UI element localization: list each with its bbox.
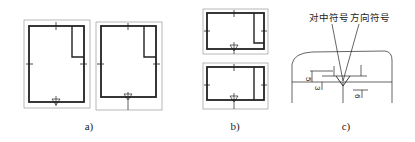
panel-a-label: a)	[85, 120, 94, 133]
dimension-3: 3	[313, 86, 322, 91]
centering-symbol-label: 对中符号	[309, 12, 349, 23]
dimension-5: 5	[304, 77, 313, 82]
orientation-mark	[230, 42, 238, 54]
panel-b-sheet-2	[203, 63, 268, 109]
panel-c-detail	[292, 24, 392, 103]
orientation-mark	[124, 92, 132, 110]
panel-b-label: b)	[230, 120, 240, 133]
orientation-mark	[230, 93, 238, 109]
orientation-symbol-label: 方向符号	[350, 12, 390, 23]
dimension-6: 6	[353, 94, 362, 99]
orientation-mark	[52, 96, 60, 106]
panel-c-label: c)	[342, 120, 351, 133]
panel-b-sheet-1	[203, 9, 268, 54]
panel-a-sheet-2	[96, 22, 162, 110]
technical-drawing: a) b)	[0, 0, 415, 142]
panel-a-sheet-1	[24, 20, 90, 108]
